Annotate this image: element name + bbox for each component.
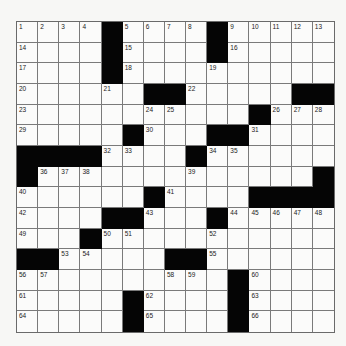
grid-cell[interactable] <box>59 84 80 105</box>
grid-cell[interactable] <box>186 63 207 84</box>
grid-cell[interactable] <box>186 43 207 64</box>
grid-cell[interactable] <box>313 63 334 84</box>
grid-cell[interactable]: 61 <box>17 291 38 312</box>
grid-cell[interactable] <box>80 291 101 312</box>
grid-cell[interactable] <box>207 84 228 105</box>
grid-cell[interactable] <box>271 63 292 84</box>
grid-cell[interactable] <box>228 105 249 126</box>
grid-cell[interactable] <box>38 63 59 84</box>
grid-cell[interactable] <box>207 187 228 208</box>
grid-cell[interactable] <box>313 125 334 146</box>
grid-cell[interactable] <box>80 311 101 332</box>
grid-cell[interactable]: 59 <box>186 270 207 291</box>
grid-cell[interactable]: 1 <box>17 22 38 43</box>
grid-cell[interactable] <box>102 311 123 332</box>
grid-cell[interactable]: 36 <box>38 167 59 188</box>
grid-cell[interactable] <box>271 229 292 250</box>
grid-cell[interactable]: 56 <box>17 270 38 291</box>
grid-cell[interactable] <box>59 43 80 64</box>
grid-cell[interactable] <box>80 208 101 229</box>
grid-cell[interactable]: 49 <box>17 229 38 250</box>
grid-cell[interactable] <box>102 187 123 208</box>
grid-cell[interactable]: 44 <box>228 208 249 229</box>
grid-cell[interactable] <box>144 167 165 188</box>
grid-cell[interactable] <box>59 105 80 126</box>
grid-cell[interactable] <box>313 229 334 250</box>
grid-cell[interactable] <box>186 229 207 250</box>
grid-cell[interactable] <box>271 167 292 188</box>
grid-cell[interactable] <box>59 270 80 291</box>
grid-cell[interactable] <box>123 187 144 208</box>
grid-cell[interactable] <box>102 249 123 270</box>
grid-cell[interactable]: 28 <box>313 105 334 126</box>
grid-cell[interactable] <box>207 291 228 312</box>
grid-cell[interactable]: 45 <box>249 208 270 229</box>
grid-cell[interactable] <box>59 187 80 208</box>
grid-cell[interactable] <box>144 43 165 64</box>
grid-cell[interactable] <box>59 229 80 250</box>
grid-cell[interactable] <box>123 270 144 291</box>
grid-cell[interactable] <box>59 125 80 146</box>
grid-cell[interactable] <box>80 63 101 84</box>
grid-cell[interactable] <box>123 249 144 270</box>
grid-cell[interactable] <box>123 105 144 126</box>
grid-cell[interactable] <box>186 208 207 229</box>
grid-cell[interactable] <box>38 187 59 208</box>
grid-cell[interactable]: 35 <box>228 146 249 167</box>
grid-cell[interactable] <box>144 63 165 84</box>
grid-cell[interactable]: 38 <box>80 167 101 188</box>
grid-cell[interactable] <box>271 249 292 270</box>
grid-cell[interactable] <box>228 187 249 208</box>
grid-cell[interactable] <box>271 270 292 291</box>
grid-cell[interactable] <box>80 84 101 105</box>
grid-cell[interactable]: 57 <box>38 270 59 291</box>
grid-cell[interactable]: 14 <box>17 43 38 64</box>
grid-cell[interactable] <box>228 249 249 270</box>
grid-cell[interactable] <box>38 291 59 312</box>
grid-cell[interactable]: 7 <box>165 22 186 43</box>
grid-cell[interactable]: 42 <box>17 208 38 229</box>
grid-cell[interactable] <box>249 167 270 188</box>
grid-cell[interactable] <box>165 208 186 229</box>
grid-cell[interactable]: 5 <box>123 22 144 43</box>
grid-cell[interactable]: 27 <box>292 105 313 126</box>
grid-cell[interactable]: 58 <box>165 270 186 291</box>
grid-cell[interactable] <box>38 125 59 146</box>
grid-cell[interactable] <box>207 105 228 126</box>
grid-cell[interactable]: 10 <box>249 22 270 43</box>
grid-cell[interactable] <box>207 167 228 188</box>
grid-cell[interactable] <box>165 43 186 64</box>
grid-cell[interactable] <box>144 249 165 270</box>
grid-cell[interactable] <box>313 291 334 312</box>
grid-cell[interactable]: 26 <box>271 105 292 126</box>
grid-cell[interactable] <box>271 125 292 146</box>
grid-cell[interactable] <box>292 146 313 167</box>
grid-cell[interactable] <box>313 311 334 332</box>
grid-cell[interactable]: 66 <box>249 311 270 332</box>
grid-cell[interactable] <box>165 146 186 167</box>
grid-cell[interactable] <box>144 270 165 291</box>
grid-cell[interactable] <box>228 84 249 105</box>
grid-cell[interactable] <box>80 187 101 208</box>
grid-cell[interactable] <box>292 125 313 146</box>
grid-cell[interactable]: 23 <box>17 105 38 126</box>
grid-cell[interactable] <box>186 125 207 146</box>
grid-cell[interactable] <box>249 229 270 250</box>
grid-cell[interactable] <box>144 229 165 250</box>
grid-cell[interactable] <box>313 249 334 270</box>
grid-cell[interactable]: 43 <box>144 208 165 229</box>
grid-cell[interactable]: 50 <box>102 229 123 250</box>
grid-cell[interactable]: 31 <box>249 125 270 146</box>
grid-cell[interactable]: 11 <box>271 22 292 43</box>
grid-cell[interactable] <box>313 146 334 167</box>
grid-cell[interactable] <box>80 125 101 146</box>
grid-cell[interactable]: 60 <box>249 270 270 291</box>
grid-cell[interactable]: 4 <box>80 22 101 43</box>
grid-cell[interactable]: 64 <box>17 311 38 332</box>
grid-cell[interactable]: 33 <box>123 146 144 167</box>
grid-cell[interactable] <box>165 167 186 188</box>
grid-cell[interactable]: 3 <box>59 22 80 43</box>
grid-cell[interactable] <box>186 291 207 312</box>
grid-cell[interactable]: 30 <box>144 125 165 146</box>
grid-cell[interactable]: 52 <box>207 229 228 250</box>
